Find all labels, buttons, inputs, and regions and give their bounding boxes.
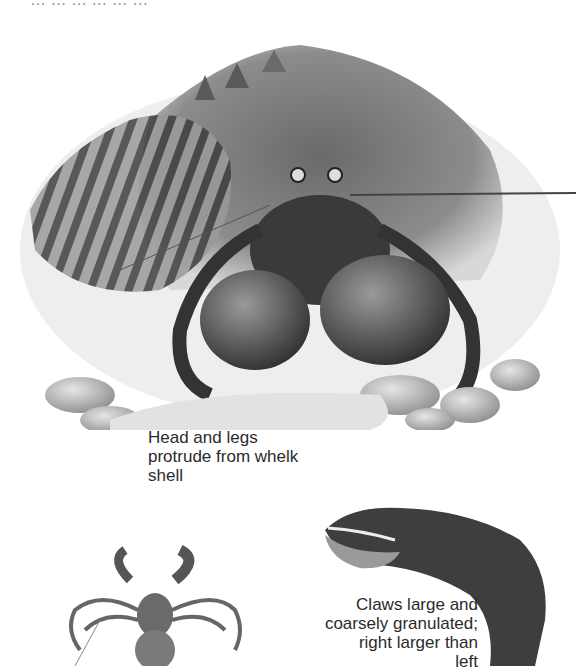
main-caption-line: shell [148,466,348,485]
claw-caption: Claws large and coarsely granulated; rig… [288,595,478,671]
main-caption-line: protrude from whelk [148,447,348,466]
main-caption: Head and legs protrude from whelk shell [148,428,348,485]
cropped-top-text: … … … … … … [30,0,148,9]
claw-caption-line: Claws large and [288,595,478,614]
hermit-crab-dorsal-illustration [30,540,260,666]
main-caption-line: Head and legs [148,428,348,447]
claw-caption-line: right larger than [288,633,478,652]
claw-caption-line: coarsely granulated; [288,614,478,633]
hermit-crab-main-illustration [0,30,577,430]
claw-caption-line: left [288,652,478,671]
